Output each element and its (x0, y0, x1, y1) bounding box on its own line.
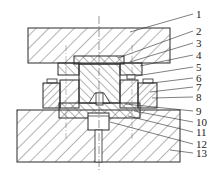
callout-number: 3 (196, 37, 202, 49)
callout-number: 2 (196, 25, 202, 37)
callout-number: 4 (196, 49, 202, 61)
leader-line (152, 78, 193, 83)
die-assembly-drawing: 12345678910111213 (0, 0, 220, 174)
callout-7: 7 (150, 81, 202, 93)
callout-8: 8 (152, 91, 202, 103)
callout-number: 11 (196, 126, 207, 138)
leader-line (136, 67, 193, 76)
callout-number: 1 (196, 8, 202, 20)
callout-number: 13 (196, 147, 208, 159)
punch-part-2 (79, 64, 120, 105)
callout-number: 8 (196, 91, 202, 103)
callout-6: 6 (152, 72, 202, 84)
leader-line (152, 97, 193, 98)
